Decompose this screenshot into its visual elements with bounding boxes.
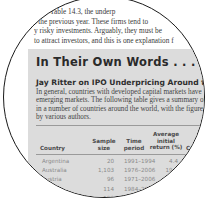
cell-sample-size: 114 [94,186,114,192]
header-line: period [120,145,148,152]
underpricing-table: Country Sample size Time period Average … [36,125,205,198]
body-line: ed in Table 14.3, the underp [34,7,205,17]
header-rule [36,154,205,155]
header-time-period: Time period [120,138,148,151]
body-line: f the previous year. These firms tend to [34,17,205,27]
box-line: by various authors. [36,113,205,121]
header-line: Sample [90,138,118,145]
table-row: Australia1,1031976–200619.8Korea [36,167,205,176]
header-line: size [90,145,118,152]
table-row: 1141984–200613.5 [36,186,205,195]
cell-country2: Korea [186,167,202,173]
cell-country2: Japan [186,158,202,164]
cell-avg-return: 19.8 [154,167,178,173]
header-line: initial [148,138,184,145]
box-line: In general, countries with developed cap… [36,88,205,96]
body-line: y risky investments. Arguably, they must… [34,26,205,36]
table-row: 1801979–2006 [36,195,205,198]
cell-time-period: 1991–1994 [124,158,155,164]
header-line: return (%) [148,144,184,151]
header-line: Average [148,131,184,138]
cell-time-period: 1984–2006 [124,186,155,192]
cell-country: Australia [42,167,67,173]
box-title: In Their Own Words . . . [36,55,196,69]
cell-time-period: 1979–2006 [124,195,155,198]
cell-time-period: 1971–2006 [124,176,155,182]
cell-sample-size: 20 [94,158,114,164]
header-country: Country [40,145,65,152]
cell-time-period: 1976–2006 [124,167,155,173]
box-paragraph: In general, countries with developed cap… [36,88,205,122]
header-country-2: Country [186,145,205,152]
cell-avg-return: 13.5 [154,186,178,192]
cell-sample-size: 180 [94,195,114,198]
cell-country: Austria [42,176,62,182]
cell-avg-return: 4.4 [154,158,178,164]
cell-avg-return: 6.5 [154,176,178,182]
textbook-page: ed in Table 14.3, the underp f the previ… [4,0,205,198]
table-row: Austria961971–20066.5 [36,176,205,185]
cell-sample-size: 96 [94,176,114,182]
header-line: Time [120,138,148,145]
body-paragraph: ed in Table 14.3, the underp f the previ… [34,7,205,45]
box-line: in a number of countries around the worl… [36,105,205,113]
cell-sample-size: 1,103 [94,167,114,173]
magnifier-lens: ed in Table 14.3, the underp f the previ… [3,0,205,198]
header-sample-size: Sample size [90,138,118,151]
box-line: emerging markets. The following table gi… [36,96,205,104]
box-subtitle: Jay Ritter on IPO Underpricing Around th… [36,78,205,87]
cell-country: Argentina [42,158,69,164]
header-avg-return: Average initial return (%) [148,131,184,151]
table-row: Argentina201991–19944.4Japan [36,158,205,167]
body-line: to attract investors, and this is one ex… [34,36,205,46]
